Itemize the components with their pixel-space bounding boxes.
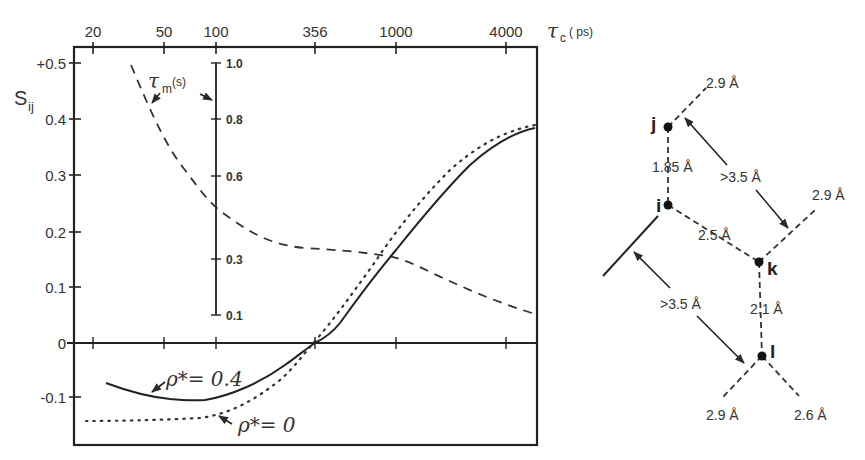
svg-text:m: m xyxy=(162,82,172,96)
label-k: k xyxy=(767,258,778,279)
top-tick-1000: 1000 xyxy=(379,23,412,40)
tau-m-axis-arrow xyxy=(200,94,212,100)
svg-text:ρ*= 0.4: ρ*= 0.4 xyxy=(165,367,243,391)
node-l xyxy=(758,352,767,361)
inner-tick-0.8: 0.8 xyxy=(226,113,243,127)
top-tick-20: 20 xyxy=(85,23,102,40)
tau-m-label: τ m (s) xyxy=(148,69,186,96)
left-axis-title: S ij xyxy=(14,87,34,114)
bond-l-left xyxy=(722,356,762,398)
node-j xyxy=(664,123,673,132)
top-tick-100: 100 xyxy=(203,23,228,40)
arrow-l xyxy=(697,316,744,363)
figure-canvas: 20 50 100 356 1000 4000 τ c ( ps) +0.5 0… xyxy=(0,0,865,460)
svg-text:c: c xyxy=(560,31,566,45)
left-tick-0.3: 0.3 xyxy=(45,167,66,184)
svg-text:ρ*= 0: ρ*= 0 xyxy=(237,413,296,437)
node-k xyxy=(755,258,764,267)
label-j: j xyxy=(650,113,656,134)
inner-tick-0.6: 0.6 xyxy=(226,170,243,184)
svg-text:S: S xyxy=(14,87,27,109)
dist-j-i: 1.85 Å xyxy=(652,159,693,175)
label-l: l xyxy=(770,341,775,362)
svg-text:(s): (s) xyxy=(172,75,186,89)
legend-rho-0.4-arrow xyxy=(152,382,165,392)
arrow-k xyxy=(756,190,788,228)
dist-i-k: 2.5 Å xyxy=(698,227,731,243)
top-axis-title: τ c ( ps) xyxy=(547,19,593,45)
inner-tick-0.3: 0.3 xyxy=(226,253,243,267)
dist-i-l: >3.5 Å xyxy=(660,296,702,312)
svg-text:( ps): ( ps) xyxy=(569,25,593,39)
dist-l-right: 2.6 Å xyxy=(794,407,827,423)
svg-text:ij: ij xyxy=(28,99,34,114)
left-tick-0.5: +0.5 xyxy=(36,55,66,72)
left-tick-0.2: 0.2 xyxy=(45,224,66,241)
left-tick-0.4: 0.4 xyxy=(45,111,66,128)
rho-0.4-solid-curve xyxy=(106,128,535,400)
arrow-plane xyxy=(634,252,670,288)
plot-frame xyxy=(74,47,537,445)
top-tick-4000: 4000 xyxy=(489,23,522,40)
dist-k-l: 2.1 Å xyxy=(750,301,783,317)
zero-line xyxy=(67,337,537,349)
tau-m-dashed-curve xyxy=(131,65,535,314)
inner-tick-0.1: 0.1 xyxy=(226,309,243,323)
arrow-j xyxy=(685,118,727,165)
dist-j-top: 2.9 Å xyxy=(706,75,739,91)
svg-text:τ: τ xyxy=(148,69,160,93)
bond-l-right xyxy=(762,356,799,396)
left-tick-neg0.1: -0.1 xyxy=(40,389,66,406)
dist-l-left: 2.9 Å xyxy=(706,407,739,423)
top-tick-50: 50 xyxy=(156,23,173,40)
tau-m-curve-arrow xyxy=(152,93,160,103)
node-i xyxy=(664,201,673,210)
inner-tau-m-axis xyxy=(211,63,221,315)
svg-text:τ: τ xyxy=(547,19,559,43)
dist-k-top: 2.9 Å xyxy=(812,187,845,203)
legend-rho-0: ρ*= 0 xyxy=(219,413,296,437)
inner-tick-1.0: 1.0 xyxy=(226,57,243,71)
geometry-diagram: j i k l 2.9 Å 1.85 Å >3.5 Å 2.9 Å 2.5 Å … xyxy=(603,75,845,423)
left-tick-0: 0 xyxy=(58,335,66,352)
top-tick-356: 356 xyxy=(302,23,327,40)
rho-0-dotted-curve xyxy=(86,125,535,421)
legend-rho-0.4: ρ*= 0.4 xyxy=(152,367,243,392)
bond-k-top xyxy=(759,210,815,262)
label-i: i xyxy=(656,195,661,216)
dist-j-k: >3.5 Å xyxy=(720,169,762,185)
left-tick-0.1: 0.1 xyxy=(45,279,66,296)
legend-rho-0-arrow xyxy=(219,416,232,424)
